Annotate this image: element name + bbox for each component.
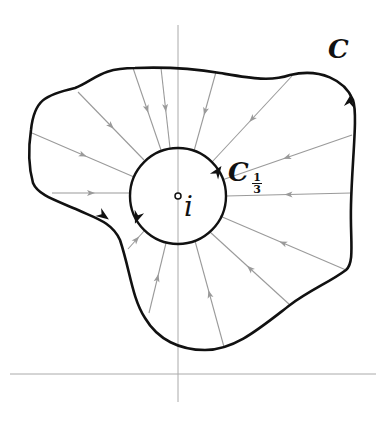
flow-arrow-icon — [154, 273, 162, 282]
coordinate-axes — [10, 25, 376, 402]
flow-arrow-icon — [78, 151, 88, 160]
inner-contour-subscript: 1 3 — [251, 172, 263, 195]
center-point-label: i — [184, 190, 193, 223]
subscript-denominator: 3 — [253, 183, 261, 196]
center-point-marker — [175, 193, 181, 199]
inner-contour-label: C — [228, 157, 249, 187]
flow-arrow-icon — [282, 153, 292, 161]
flow-arrow-icon — [278, 239, 288, 248]
outer-contour-label: C — [328, 34, 349, 64]
flow-arrow-icon — [143, 104, 151, 114]
flow-arrow-icon — [201, 107, 209, 116]
flow-arrow-icon — [206, 289, 214, 298]
